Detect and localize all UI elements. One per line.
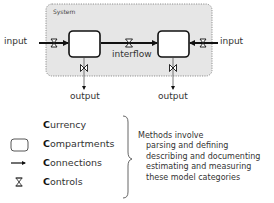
methods-line: estimating and measuring <box>138 162 260 172</box>
output-left-label: output <box>70 91 100 101</box>
methods-line: these model categories <box>138 173 260 183</box>
methods-line: describing and documenting <box>138 152 260 162</box>
brace <box>123 116 132 198</box>
interflow-label: interflow <box>112 49 152 59</box>
rounded-box-icon <box>11 139 28 151</box>
legend-currency: Currency <box>43 119 86 130</box>
methods-line: parsing and defining <box>138 141 260 151</box>
output-right-label: output <box>158 91 188 101</box>
input-right-label: input <box>220 36 243 46</box>
legend-controls: Controls <box>43 176 83 187</box>
legend-compartments: Compartments <box>43 138 114 149</box>
compartment-right <box>158 31 189 57</box>
input-left-label: input <box>4 36 27 46</box>
legend-connections: Connections <box>43 157 102 168</box>
compartment-left <box>69 31 100 57</box>
methods-heading: Methods involve <box>138 131 260 141</box>
valve-icon <box>16 178 23 186</box>
system-label: System <box>53 8 75 15</box>
methods-text: Methods involve parsing and defining des… <box>138 131 260 183</box>
